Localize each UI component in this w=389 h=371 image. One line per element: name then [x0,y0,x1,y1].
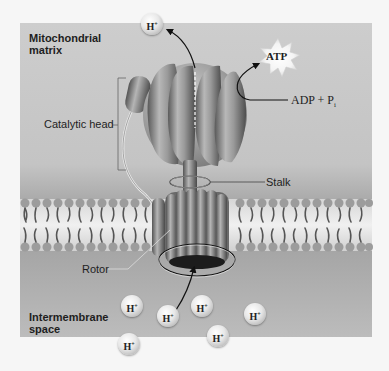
proton-ion: H+ [244,303,266,325]
atp-label: ATP [266,50,287,62]
matrix-label-line2: matrix [29,44,101,56]
rotor [165,189,229,269]
stator-anchor [152,198,165,256]
pi-subscript: i [334,101,336,109]
adp-pi-text: ADP + P [291,93,334,107]
proton-ion: H+ [157,305,179,327]
adp-pi-label: ADP + Pi [291,93,336,109]
matrix-label-line1: Mitochondrial [29,32,101,44]
intermembrane-label-line2: space [29,323,108,335]
proton-ion: H+ [118,333,140,355]
proton-ion: H+ [121,295,143,317]
proton-ion: H+ [141,13,163,35]
intermembrane-label-line1: Intermembrane [29,311,108,323]
stalk-label: Stalk [266,176,290,188]
atp-text: ATP [266,50,287,62]
proton-ion: H+ [191,295,213,317]
catalytic-head [143,63,247,167]
intermembrane-label: Intermembrane space [29,311,108,335]
rotor-label: Rotor [82,263,109,275]
proton-ion: H+ [207,325,229,347]
catalytic-head-label: Catalytic head [44,118,114,130]
matrix-label: Mitochondrial matrix [29,32,101,56]
